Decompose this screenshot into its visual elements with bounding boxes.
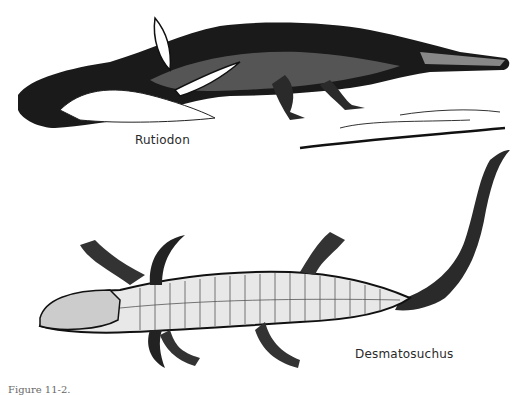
figure-caption: Figure 11-2.: [8, 384, 71, 395]
figure-illustration: [0, 0, 526, 395]
desmatosuchus-illustration: [40, 150, 510, 368]
label-desmatosuchus: Desmatosuchus: [355, 347, 453, 361]
label-rutiodon: Rutiodon: [135, 133, 190, 147]
rutiodon-illustration: [18, 18, 509, 148]
